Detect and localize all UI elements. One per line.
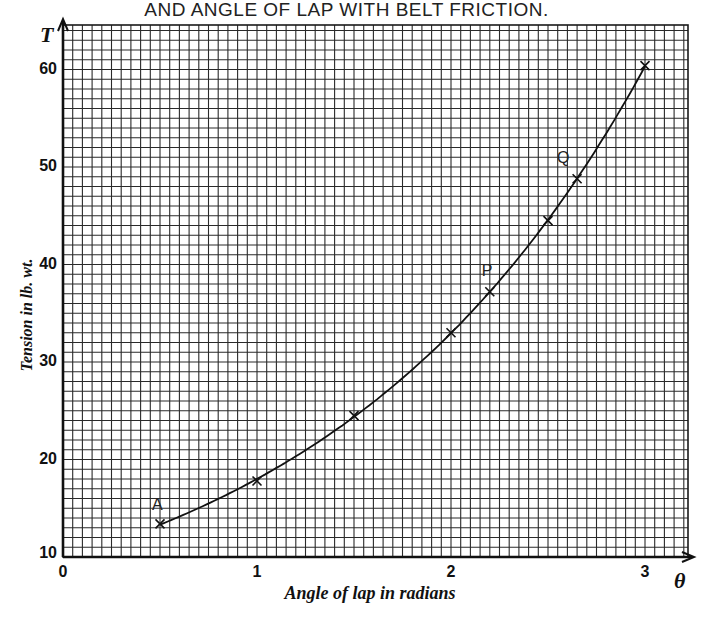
x-tick-label: 3 <box>635 563 655 581</box>
y-axis-label: Tension in lb. wt. <box>18 230 36 400</box>
y-axis-symbol: T <box>40 22 53 48</box>
point-label-q: Q <box>557 149 569 167</box>
y-tick-label: 20 <box>17 450 57 468</box>
x-axis-symbol: θ <box>674 568 685 594</box>
plot-area <box>0 0 701 622</box>
y-tick-label: 60 <box>17 60 57 78</box>
point-label-a: A <box>152 496 163 514</box>
x-tick-label: 0 <box>53 563 73 581</box>
grid-border <box>63 25 688 557</box>
x-tick-label: 1 <box>247 563 267 581</box>
y-tick-label: 50 <box>17 157 57 175</box>
x-axis-label: Angle of lap in radians <box>160 583 580 604</box>
x-tick-label: 2 <box>441 563 461 581</box>
point-label-p: P <box>482 262 493 280</box>
y-tick-label: 10 <box>17 544 57 562</box>
grid-lines <box>63 25 688 557</box>
